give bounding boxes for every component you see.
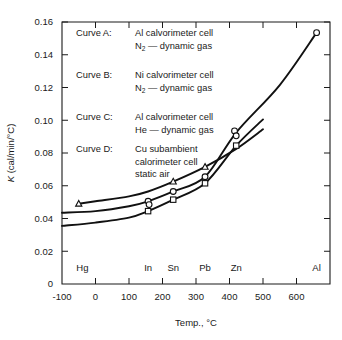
- y-tick-label: 0.14: [35, 49, 54, 60]
- x-tick-label: 500: [255, 291, 271, 302]
- chart-legend: Curve A:Al calvorimeter cellN2 — dynamic…: [76, 28, 214, 179]
- y-tick-label: 0.04: [35, 213, 54, 224]
- y-tick-label: 0: [48, 278, 53, 289]
- datapoint-circle: [170, 189, 176, 195]
- legend-line2-1: N2 — dynamic gas: [135, 41, 212, 53]
- x-axis-title: Temp., °C: [175, 317, 217, 328]
- legend-line3-4: static air: [135, 169, 170, 179]
- x-tick-label: 600: [289, 291, 305, 302]
- element-label-sn: Sn: [167, 262, 179, 273]
- datapoint-square: [202, 181, 207, 186]
- plot-area: 00.020.040.060.080.100.120.140.16-100010…: [0, 0, 342, 340]
- y-tick-label: 0.16: [35, 16, 54, 27]
- legend-line2-3: He — dynamic gas: [135, 125, 214, 135]
- legend-line1-1: Al calvorimeter cell: [135, 28, 213, 38]
- legend-line1-3: Al calvorimeter cell: [135, 112, 213, 122]
- legend-line1-4: Cu subambient: [135, 144, 198, 154]
- element-label-in: In: [144, 262, 152, 273]
- legend-key-3: Curve C:: [76, 112, 113, 122]
- x-tick-label: 300: [188, 291, 204, 302]
- datapoint-square: [171, 197, 176, 202]
- x-tick-label: 100: [121, 291, 137, 302]
- y-tick-label: 0.08: [35, 147, 54, 158]
- y-tick-label: 0.06: [35, 180, 54, 191]
- legend-key-2: Curve B:: [76, 70, 112, 80]
- datapoint-triangle: [76, 200, 82, 206]
- x-tick-label: -100: [52, 291, 71, 302]
- y-axis-title: K (cal/min/°C): [5, 124, 16, 183]
- datapoint-circle: [202, 174, 208, 180]
- element-reference-labels: HgInSnPbZnAl: [76, 262, 320, 273]
- y-tick-label: 0.10: [35, 115, 54, 126]
- legend-key-4: Curve D:: [76, 144, 113, 154]
- curve-curve-b: [62, 33, 317, 213]
- legend-line1-2: Ni calvorimeter cell: [135, 70, 214, 80]
- element-label-zn: Zn: [231, 262, 242, 273]
- datapoint-triangle: [170, 178, 176, 184]
- y-tick-label: 0.12: [35, 82, 54, 93]
- element-label-al: Al: [312, 262, 320, 273]
- legend-line2-2: N2 — dynamic gas: [135, 83, 212, 95]
- x-tick-label: 200: [155, 291, 171, 302]
- datapoint-circle: [146, 202, 152, 208]
- datapoint-circle: [314, 30, 320, 36]
- chart-figure: 00.020.040.060.080.100.120.140.16-100010…: [0, 0, 342, 340]
- element-label-pb: Pb: [199, 262, 211, 273]
- datapoint-triangle: [202, 164, 208, 170]
- datapoint-square: [145, 208, 150, 213]
- legend-line2-4: calorimeter cell: [135, 157, 198, 167]
- x-tick-label: 400: [222, 291, 238, 302]
- x-tick-label: 0: [93, 291, 98, 302]
- element-label-hg: Hg: [76, 262, 88, 273]
- y-tick-label: 0.02: [35, 246, 54, 257]
- datapoint-square: [234, 143, 239, 148]
- datapoint-circle: [233, 133, 239, 139]
- legend-key-1: Curve A:: [76, 28, 112, 38]
